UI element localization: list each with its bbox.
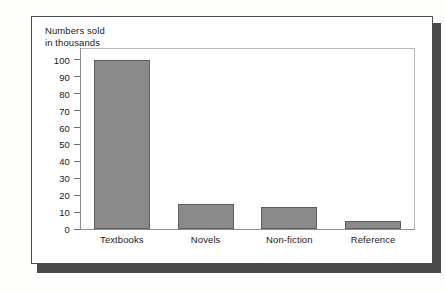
chart-card: Numbers sold in thousands 01020304050607… — [31, 16, 433, 264]
y-axis-tick-mark — [74, 110, 80, 111]
y-axis-tick-mark — [74, 93, 80, 94]
bar-non-fiction — [261, 207, 317, 229]
y-axis-tick-mark — [74, 161, 80, 162]
y-axis-tick: 60 — [74, 127, 80, 128]
y-axis-tick: 90 — [74, 76, 80, 77]
y-axis-tick: 50 — [74, 144, 80, 145]
y-axis-tick-mark — [74, 76, 80, 77]
y-axis-tick-label: 60 — [59, 122, 70, 133]
page-background: Numbers sold in thousands 01020304050607… — [0, 0, 446, 293]
y-axis-tick-mark — [74, 229, 80, 230]
y-axis-tick: 0 — [74, 229, 80, 230]
x-axis-label-textbooks: Textbooks — [100, 234, 144, 245]
y-axis-tick-mark — [74, 178, 80, 179]
x-axis-label-reference: Reference — [351, 234, 396, 245]
y-axis-tick-label: 0 — [65, 224, 70, 235]
y-axis-tick: 20 — [74, 195, 80, 196]
chart-axis-title: Numbers sold in thousands — [45, 25, 105, 48]
y-axis-tick-label: 50 — [59, 139, 70, 150]
bar-textbooks — [94, 60, 150, 229]
y-axis-line — [80, 48, 81, 230]
y-axis-tick-mark — [74, 212, 80, 213]
y-axis-tick-mark — [74, 59, 80, 60]
x-axis-label-novels: Novels — [191, 234, 221, 245]
y-axis-tick-mark — [74, 144, 80, 145]
y-axis-tick: 80 — [74, 93, 80, 94]
y-axis-tick: 100 — [74, 59, 80, 60]
y-axis-tick-label: 90 — [59, 71, 70, 82]
bar-novels — [178, 204, 234, 229]
x-axis-baseline — [80, 229, 415, 230]
y-axis-tick: 70 — [74, 110, 80, 111]
y-axis-tick-mark — [74, 127, 80, 128]
y-axis-tick-label: 80 — [59, 88, 70, 99]
y-axis-tick: 10 — [74, 212, 80, 213]
bar-reference — [345, 221, 401, 229]
y-axis-tick-label: 20 — [59, 190, 70, 201]
x-axis-label-non-fiction: Non-fiction — [266, 234, 313, 245]
y-axis-tick-label: 100 — [54, 54, 70, 65]
y-axis-tick-label: 40 — [59, 156, 70, 167]
y-axis-tick-label: 70 — [59, 105, 70, 116]
y-axis-tick: 40 — [74, 161, 80, 162]
y-axis-tick-mark — [74, 195, 80, 196]
y-axis-tick: 30 — [74, 178, 80, 179]
y-axis-tick-label: 10 — [59, 207, 70, 218]
y-axis-tick-label: 30 — [59, 173, 70, 184]
